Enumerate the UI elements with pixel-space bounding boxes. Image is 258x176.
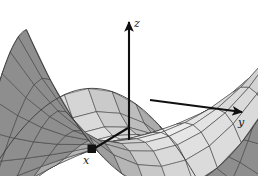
x-axis-label: x xyxy=(83,155,89,166)
x-axis-arrowhead xyxy=(88,145,97,154)
z-axis-label: z xyxy=(134,18,140,29)
surface-plot-canvas xyxy=(0,0,258,176)
y-axis-label: y xyxy=(238,117,244,128)
surface-plot-figure: x y z xyxy=(0,0,258,176)
